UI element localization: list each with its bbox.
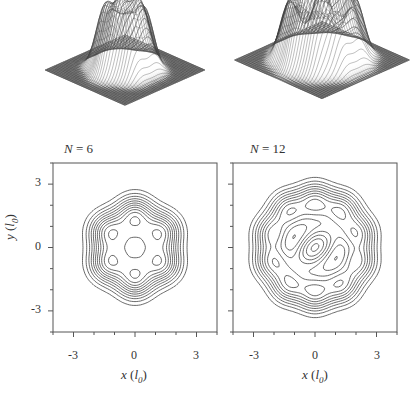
surface-plot-n6 <box>45 0 205 105</box>
panel-label-n6: N = 6 <box>64 141 93 157</box>
surface-plot-n12 <box>235 0 410 99</box>
ylabel: y (l0) <box>2 214 20 240</box>
xtick-right-neg3: -3 <box>249 348 259 363</box>
xlabel-right: x (l0) <box>302 367 328 385</box>
xtick-left-0: 0 <box>131 348 137 363</box>
xtick-left-neg3: -3 <box>68 348 78 363</box>
xtick-right-3: 3 <box>374 348 380 363</box>
xlabel-left: x (l0) <box>121 367 147 385</box>
ytick-3: 3 <box>35 175 41 190</box>
panel-label-n12: N = 12 <box>250 141 286 157</box>
ytick-0: 0 <box>35 239 41 254</box>
contour-plot-n12 <box>228 163 397 337</box>
contour-plot-n6 <box>48 163 217 337</box>
ytick-neg3: -3 <box>31 302 41 317</box>
figure-canvas <box>0 0 415 397</box>
xtick-right-0: 0 <box>312 348 318 363</box>
xtick-left-3: 3 <box>193 348 199 363</box>
